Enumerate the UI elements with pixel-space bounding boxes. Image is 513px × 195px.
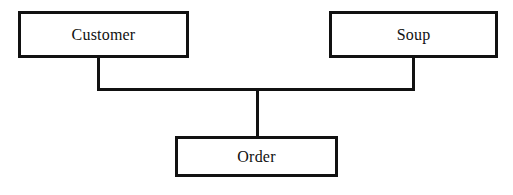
edge-crossbar-to-order	[256, 88, 259, 138]
edge-customer-to-order	[97, 57, 100, 90]
node-customer[interactable]: Customer	[18, 11, 189, 58]
node-order[interactable]: Order	[175, 136, 338, 177]
node-soup-label: Soup	[397, 27, 431, 43]
node-order-label: Order	[237, 149, 275, 165]
node-customer-label: Customer	[72, 27, 136, 43]
diagram-canvas: Customer Soup Order	[0, 0, 513, 195]
node-soup[interactable]: Soup	[329, 11, 498, 58]
edge-soup-to-order	[412, 57, 415, 90]
